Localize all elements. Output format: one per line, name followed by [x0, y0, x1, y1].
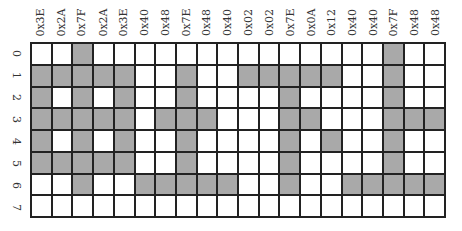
- grid-cell: [342, 43, 363, 65]
- grid-cell: [321, 130, 342, 152]
- grid-cell: [31, 130, 52, 152]
- grid-cell: [321, 195, 342, 217]
- column-label-text: 0x3E: [117, 8, 130, 36]
- column-label-text: 0x7F: [388, 8, 401, 36]
- grid-cell: [342, 174, 363, 196]
- column-label-text: 0x48: [159, 8, 172, 35]
- grid-cell: [279, 65, 300, 87]
- grid-cell: [383, 195, 404, 217]
- grid-cell: [52, 87, 73, 109]
- grid-cell: [155, 195, 176, 217]
- grid-cell: [217, 174, 238, 196]
- grid-cell: [31, 174, 52, 196]
- grid-cell: [383, 152, 404, 174]
- grid-cell: [114, 174, 135, 196]
- column-label: 0x0A: [300, 3, 321, 41]
- grid-cell: [217, 130, 238, 152]
- grid-cell: [238, 65, 259, 87]
- column-label-text: 0x40: [221, 8, 234, 35]
- grid-cell: [300, 43, 321, 65]
- grid-cell: [197, 65, 218, 87]
- grid-cell: [321, 108, 342, 130]
- grid-cell: [93, 43, 114, 65]
- grid-cell: [238, 108, 259, 130]
- grid-cell: [31, 152, 52, 174]
- column-label-text: 0x7E: [179, 8, 192, 36]
- row-label: 0: [6, 42, 26, 64]
- column-label-text: 0x7E: [283, 8, 296, 36]
- grid-cell: [238, 195, 259, 217]
- row-label: 3: [6, 108, 26, 130]
- column-label-text: 0x7F: [76, 8, 89, 36]
- grid-cell: [176, 87, 197, 109]
- grid-cell: [135, 195, 156, 217]
- grid-cell: [404, 65, 425, 87]
- grid-cell: [424, 195, 445, 217]
- grid-cell: [93, 65, 114, 87]
- grid-cell: [279, 108, 300, 130]
- grid-cell: [383, 108, 404, 130]
- column-label-text: 0x3E: [34, 8, 47, 36]
- grid-cell: [300, 108, 321, 130]
- column-label: 0x40: [217, 3, 238, 41]
- grid-cell: [155, 87, 176, 109]
- grid-cell: [197, 43, 218, 65]
- grid-cell: [197, 152, 218, 174]
- grid-cell: [404, 43, 425, 65]
- grid-cell: [72, 152, 93, 174]
- grid-cell: [238, 152, 259, 174]
- grid-cell: [31, 87, 52, 109]
- grid-cell: [238, 87, 259, 109]
- grid-cell: [342, 108, 363, 130]
- grid-cell: [259, 152, 280, 174]
- column-label: 0x3E: [30, 3, 51, 41]
- column-label: 0x48: [404, 3, 425, 41]
- grid-cell: [259, 130, 280, 152]
- grid-cell: [321, 174, 342, 196]
- row-label-text: 7: [10, 204, 23, 211]
- grid-cell: [176, 174, 197, 196]
- grid-cell: [31, 195, 52, 217]
- bitmap-grid: [30, 42, 446, 218]
- grid-cell: [300, 65, 321, 87]
- grid-cell: [259, 87, 280, 109]
- grid-cell: [383, 174, 404, 196]
- grid-cell: [217, 43, 238, 65]
- grid-cell: [155, 174, 176, 196]
- grid-cell: [259, 174, 280, 196]
- grid-cell: [259, 108, 280, 130]
- grid-cell: [197, 174, 218, 196]
- grid-cell: [72, 130, 93, 152]
- grid-cell: [155, 152, 176, 174]
- grid-cell: [52, 43, 73, 65]
- column-label-text: 0x12: [325, 8, 338, 35]
- column-label-text: 0x48: [200, 8, 213, 35]
- grid-cell: [114, 152, 135, 174]
- grid-cell: [342, 65, 363, 87]
- row-label: 1: [6, 64, 26, 86]
- grid-cell: [93, 195, 114, 217]
- grid-cell: [404, 174, 425, 196]
- grid-cell: [72, 108, 93, 130]
- column-label: 0x7F: [384, 3, 405, 41]
- column-label: 0x40: [134, 3, 155, 41]
- grid-cell: [321, 65, 342, 87]
- column-label-text: 0x2A: [96, 8, 109, 36]
- grid-cell: [217, 108, 238, 130]
- column-label-text: 0x2A: [55, 8, 68, 36]
- grid-cell: [383, 43, 404, 65]
- grid-cell: [114, 108, 135, 130]
- grid-cell: [176, 195, 197, 217]
- column-label-text: 0x02: [242, 8, 255, 35]
- grid-cell: [424, 130, 445, 152]
- grid-cell: [52, 152, 73, 174]
- grid-cell: [217, 152, 238, 174]
- grid-cell: [300, 195, 321, 217]
- row-label-text: 3: [10, 116, 23, 123]
- grid-cell: [300, 87, 321, 109]
- grid-cell: [93, 174, 114, 196]
- grid-cell: [404, 108, 425, 130]
- grid-cell: [52, 195, 73, 217]
- grid-cell: [155, 43, 176, 65]
- grid-cell: [424, 152, 445, 174]
